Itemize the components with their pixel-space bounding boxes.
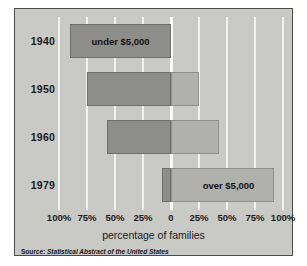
bar-row: 1940under $5,000 <box>59 17 283 65</box>
year-label-1960: 1960 <box>15 131 55 143</box>
bar-under-1950[interactable] <box>87 72 171 106</box>
source-note: Source: Statistical Abstract of the Unit… <box>21 248 169 255</box>
year-label-1940: 1940 <box>15 35 55 47</box>
x-tick-label: 100% <box>271 212 295 223</box>
x-tick-label: 100% <box>47 212 71 223</box>
bar-over-1960[interactable] <box>171 120 219 154</box>
bar-row: 1950 <box>59 65 283 113</box>
chart-plate: 1940under $5,000195019601979over $5,000 … <box>14 8 293 256</box>
x-tick-label: 25% <box>189 212 208 223</box>
chart-figure: 1940under $5,000195019601979over $5,000 … <box>0 0 307 266</box>
x-tick-label: 75% <box>245 212 264 223</box>
year-label-1979: 1979 <box>15 179 55 191</box>
x-axis-ticks: 100%75%50%25%025%50%75%100% <box>59 212 283 226</box>
x-tick-label: 25% <box>133 212 152 223</box>
bar-row: 1979over $5,000 <box>59 161 283 209</box>
bar-over-1950[interactable] <box>171 72 199 106</box>
x-tick-label: 75% <box>77 212 96 223</box>
year-label-1950: 1950 <box>15 83 55 95</box>
plot-area: 1940under $5,000195019601979over $5,000 <box>59 17 283 210</box>
bar-annotation-1940: under $5,000 <box>92 36 150 47</box>
bar-row: 1960 <box>59 113 283 161</box>
source-title: Statistical Abstract of the United State… <box>47 248 168 255</box>
source-label: Source: <box>21 248 45 255</box>
bar-annotation-1979: over $5,000 <box>203 180 255 191</box>
bar-under-1979[interactable] <box>162 168 171 202</box>
x-tick-label: 50% <box>217 212 236 223</box>
x-tick-label: 0 <box>168 212 173 223</box>
bar-under-1960[interactable] <box>107 120 171 154</box>
x-tick-label: 50% <box>105 212 124 223</box>
x-axis-title: percentage of families <box>15 229 292 241</box>
